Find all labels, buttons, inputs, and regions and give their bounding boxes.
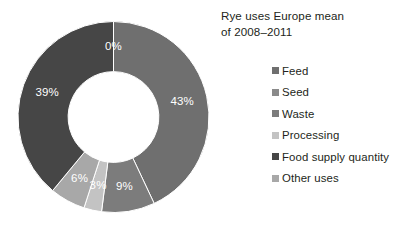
legend-item[interactable]: Other uses (272, 168, 402, 190)
legend-item[interactable]: Waste (272, 103, 402, 125)
legend-swatch-icon (272, 175, 279, 182)
donut-slice-label: 43% (170, 95, 194, 107)
donut-slice-label: 3% (90, 179, 107, 191)
chart-title: Rye uses Europe mean of 2008–2011 (221, 8, 401, 39)
chart-title-line-1: Rye uses Europe mean (221, 8, 401, 24)
legend-swatch-icon (272, 110, 279, 117)
donut-slice-label: 39% (35, 86, 59, 98)
legend-item-label: Food supply quantity (282, 151, 389, 163)
chart-legend: FeedSeedWasteProcessingFood supply quant… (272, 60, 402, 189)
donut-slice-label: 6% (71, 172, 88, 184)
chart-title-line-2: of 2008–2011 (221, 24, 401, 40)
legend-swatch-icon (272, 153, 279, 160)
legend-item[interactable]: Food supply quantity (272, 146, 402, 168)
donut-slice-label: 0% (105, 40, 122, 52)
legend-swatch-icon (272, 89, 279, 96)
legend-swatch-icon (272, 67, 279, 74)
donut-chart-plot: 43%9%3%6%39%0% (0, 6, 228, 232)
legend-swatch-icon (272, 132, 279, 139)
legend-item-label: Other uses (282, 172, 339, 184)
donut-slice-label: 9% (116, 180, 133, 192)
legend-item-label: Processing (282, 129, 339, 141)
legend-item-label: Feed (282, 65, 308, 77)
donut-chart-figure: 43%9%3%6%39%0% Rye uses Europe mean of 2… (0, 0, 402, 236)
legend-item[interactable]: Processing (272, 125, 402, 147)
legend-item[interactable]: Seed (272, 82, 402, 104)
legend-item[interactable]: Feed (272, 60, 402, 82)
legend-item-label: Waste (282, 108, 314, 120)
donut-svg: 43%9%3%6%39%0% (0, 6, 228, 232)
legend-item-label: Seed (282, 86, 309, 98)
